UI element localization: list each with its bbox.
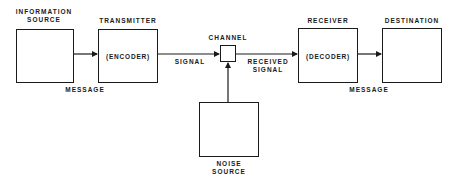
noise-source-label-line2: SOURCE xyxy=(199,168,259,176)
information-source-label: INFORMATION SOURCE xyxy=(2,8,86,24)
transmitter-inner-label: (ENCODER) xyxy=(99,53,157,60)
signal-label: SIGNAL xyxy=(170,58,210,66)
destination-box xyxy=(382,28,442,83)
message-label-right: MESSAGE xyxy=(344,86,394,94)
transmitter-label: TRANSMITTER xyxy=(90,17,166,25)
receiver-box: (DECODER) xyxy=(298,28,358,83)
information-source-label-line2: SOURCE xyxy=(2,16,86,24)
noise-source-box xyxy=(199,102,259,157)
communication-diagram: INFORMATION SOURCE TRANSMITTER (ENCODER)… xyxy=(0,0,454,183)
noise-source-label: NOISE SOURCE xyxy=(199,160,259,176)
transmitter-box: (ENCODER) xyxy=(98,29,158,83)
information-source-label-line1: INFORMATION xyxy=(2,8,86,16)
channel-box xyxy=(220,45,236,62)
received-signal-line1: RECEIVED xyxy=(240,58,296,66)
receiver-inner-label: (DECODER) xyxy=(299,52,357,59)
message-label-left: MESSAGE xyxy=(60,86,110,94)
receiver-label: RECEIVER xyxy=(296,17,360,25)
destination-label: DESTINATION xyxy=(378,17,446,25)
information-source-box xyxy=(16,29,74,83)
received-signal-line2: SIGNAL xyxy=(240,66,296,74)
noise-source-label-line1: NOISE xyxy=(199,160,259,168)
channel-label: CHANNEL xyxy=(202,34,254,42)
received-signal-label: RECEIVED SIGNAL xyxy=(240,58,296,74)
